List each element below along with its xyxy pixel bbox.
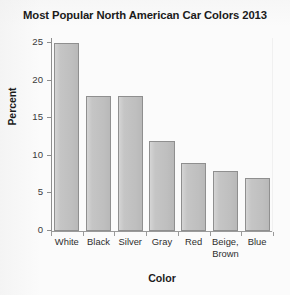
x-axis-line: [51, 231, 273, 232]
bar-shading: [246, 179, 269, 230]
y-axis-tick: 15: [47, 117, 52, 118]
y-axis-line: [51, 38, 52, 232]
x-axis-tick-label: Gray: [146, 236, 178, 248]
x-axis-tick-label: Blue: [241, 236, 273, 248]
bar: [245, 178, 270, 231]
bar-shading: [119, 97, 142, 230]
chart-figure: Most Popular North American Car Colors 2…: [0, 0, 290, 295]
x-axis-tick-label: Red: [178, 236, 210, 248]
y-axis-tick: 5: [47, 192, 52, 193]
y-axis-tick-label: 10: [32, 149, 43, 160]
y-axis-tick-label: 20: [32, 74, 43, 85]
bar-shading: [182, 164, 205, 230]
bar: [86, 96, 111, 231]
y-axis-tick-label: 0: [38, 224, 43, 235]
y-axis-tick-label: 15: [32, 111, 43, 122]
x-axis-title: Color: [51, 272, 273, 284]
plot-area: 0510152025: [51, 36, 273, 232]
y-axis-tick-label: 5: [38, 186, 43, 197]
y-axis-tick-label: 25: [32, 36, 43, 47]
bar: [181, 163, 206, 231]
bar: [54, 43, 79, 231]
y-axis-tick: 25: [47, 42, 52, 43]
y-axis-tick: 10: [47, 155, 52, 156]
bar: [213, 171, 238, 231]
x-axis-tick-label: Silver: [114, 236, 146, 248]
x-axis-tick: [273, 232, 274, 236]
y-axis-tick: 0: [47, 230, 52, 231]
bar: [149, 141, 174, 231]
bar-shading: [150, 142, 173, 230]
x-axis-tick-label: White: [51, 236, 83, 248]
bar-shading: [55, 44, 78, 230]
bar: [118, 96, 143, 231]
plot-right-frame: [272, 38, 273, 232]
chart-title: Most Popular North American Car Colors 2…: [0, 9, 290, 21]
bar-shading: [214, 172, 237, 230]
y-axis-title: Percent: [7, 72, 18, 142]
bar-shading: [87, 97, 110, 230]
x-axis-tick-label: Beige,Brown: [210, 236, 242, 259]
y-axis-tick: 20: [47, 80, 52, 81]
x-axis-tick-label: Black: [83, 236, 115, 248]
